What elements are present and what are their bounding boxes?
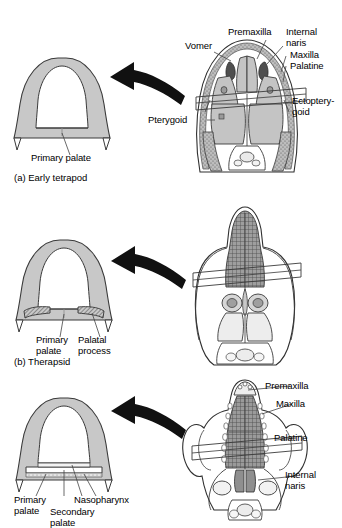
- label-nasopharynx: Nasopharynx: [74, 495, 129, 506]
- panel-therapsid: Primary palate Palatal process (b) Thera…: [0, 185, 342, 370]
- transition-arrow-c: [111, 396, 186, 439]
- panel-early-tetrapod: Vomer Premaxilla Internal naris Maxilla …: [0, 0, 342, 185]
- label-palatine-c: Palatine: [274, 433, 308, 444]
- label-premaxilla-c: Premaxilla: [265, 381, 308, 392]
- label-secondary-palate: Secondary palate: [50, 507, 95, 528]
- label-premaxilla: Premaxilla: [228, 27, 271, 38]
- transition-arrow-a: [110, 62, 185, 105]
- transition-arrow-b: [111, 246, 186, 289]
- label-pterygoid: Pterygoid: [148, 115, 187, 126]
- label-palatal-process: Palatal process: [78, 335, 111, 356]
- skull-therapsid: [193, 207, 301, 365]
- panel-mammal: Premaxilla Maxilla Palatine Internal nar…: [0, 370, 342, 522]
- label-maxilla-c: Maxilla: [276, 399, 305, 410]
- label-primary-palate-a: Primary palate: [31, 153, 91, 164]
- caption-panel-a: (a) Early tetrapod: [14, 172, 87, 183]
- panel-c-graphics: [0, 370, 342, 522]
- cross-section-therapsid: [16, 240, 112, 337]
- label-primary-palate-c: Primary palate: [14, 495, 46, 516]
- label-vomer: Vomer: [185, 41, 212, 52]
- cross-section-early-tetrapod: [14, 58, 110, 155]
- label-palatine: Palatine: [290, 61, 324, 72]
- cross-section-mammal: [16, 398, 112, 496]
- label-maxilla: Maxilla: [290, 50, 319, 61]
- label-ectopterygoid: Ectoptery- goid: [292, 96, 334, 117]
- label-internal-naris: Internal naris: [286, 27, 317, 48]
- label-internal-naris-c: Internal naris: [285, 470, 316, 491]
- label-primary-palate-b: Primary palate: [36, 335, 68, 356]
- caption-panel-b: (b) Therapsid: [14, 356, 70, 367]
